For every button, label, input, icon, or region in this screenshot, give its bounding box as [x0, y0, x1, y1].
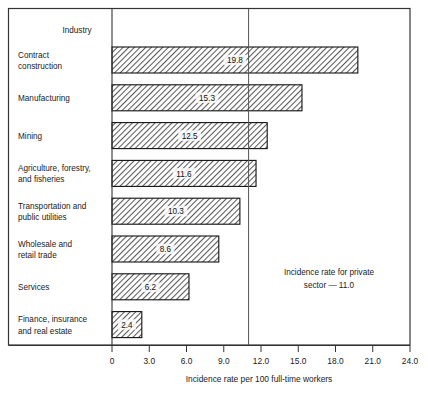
bar-value-label: 6.2 — [145, 283, 157, 292]
bar-value-label: 10.3 — [168, 207, 184, 216]
category-label: retail trade — [18, 251, 57, 260]
reference-note-line: sector — 11.0 — [304, 281, 355, 290]
chart-canvas: 19.815.312.511.610.38.66.22.4 Contractco… — [0, 0, 428, 397]
x-axis-tick-label: 3.0 — [143, 356, 155, 366]
bar-group: 2.4 — [112, 312, 142, 338]
category-label: Services — [18, 283, 49, 292]
bar-group: 15.3 — [112, 85, 302, 111]
x-axis-title: Incidence rate per 100 full-time workers — [186, 374, 333, 384]
category-label: and real estate — [18, 327, 73, 336]
category-label: Transportation and — [18, 202, 87, 211]
bar-group: 11.6 — [112, 160, 256, 186]
bar-group: 8.6 — [112, 236, 219, 262]
category-label: construction — [18, 62, 63, 71]
bar-value-label: 11.6 — [176, 170, 192, 179]
x-axis-tick-label: 12.0 — [253, 356, 270, 366]
bar-value-label: 2.4 — [121, 321, 133, 330]
bar-group: 6.2 — [112, 274, 189, 300]
category-label: Manufacturing — [18, 94, 70, 103]
reference-note-line: Incidence rate for private — [284, 268, 375, 277]
category-label: and fisheries — [18, 175, 64, 184]
x-axis-tick-label: 21.0 — [365, 356, 382, 366]
x-axis-tick-label: 9.0 — [218, 356, 230, 366]
category-label: public utilities — [18, 213, 67, 222]
category-label: Finance, insurance — [18, 315, 88, 324]
category-label: Mining — [18, 132, 43, 141]
x-axis-tick-label: 15.0 — [290, 356, 307, 366]
horizontal-bar-chart: 19.815.312.511.610.38.66.22.4 Contractco… — [0, 0, 428, 397]
bar-group: 10.3 — [112, 198, 240, 224]
bar-value-label: 19.8 — [227, 56, 243, 65]
bar-group: 12.5 — [112, 123, 267, 149]
bar-value-label: 8.6 — [160, 245, 172, 254]
bar-value-label: 15.3 — [199, 94, 215, 103]
category-label: Contract — [18, 51, 50, 60]
x-axis-tick-label: 24.0 — [402, 356, 419, 366]
bar-value-label: 12.5 — [182, 132, 198, 141]
category-label: Agriculture, forestry, — [18, 164, 91, 173]
bar-group: 19.8 — [112, 47, 358, 73]
category-axis-header: Industry — [62, 26, 92, 35]
x-axis-tick-label: 6.0 — [181, 356, 193, 366]
x-axis-tick-label: 18.0 — [327, 356, 344, 366]
x-axis-tick-label: 0 — [110, 356, 115, 366]
category-label: Wholesale and — [18, 240, 73, 249]
